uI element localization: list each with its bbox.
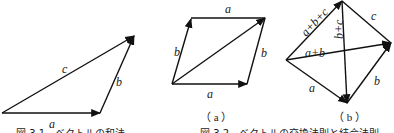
label-c: c bbox=[371, 9, 377, 23]
label-b-plus-c: b+c bbox=[332, 19, 346, 39]
vector-b-arrow bbox=[347, 43, 391, 103]
vector-addition-diagrams: a b c a a b b （ a ） a b c a+b b+c a+b+c … bbox=[0, 0, 394, 133]
vector-a-arrow bbox=[286, 60, 347, 103]
vector-a-plus-b-arrow bbox=[286, 43, 391, 60]
label-b: b bbox=[116, 75, 122, 89]
label-a-top: a bbox=[225, 2, 231, 16]
label-a-plus-b-plus-c: a+b+c bbox=[298, 4, 332, 39]
label-c: c bbox=[62, 62, 68, 76]
label-a: a bbox=[309, 81, 315, 95]
label-b: b bbox=[374, 74, 380, 88]
subfigure-b-tag: （ b ） bbox=[333, 111, 366, 123]
figure-3-2b-associative: a b c a+b b+c a+b+c （ b ） bbox=[286, 1, 391, 123]
figure-3-2a-parallelogram: a a b b （ a ） bbox=[172, 2, 267, 123]
label-a-bottom: a bbox=[207, 87, 213, 101]
diagonal-sum-arrow bbox=[172, 18, 265, 84]
figure-3-1-triangle: a b c bbox=[2, 36, 134, 131]
vector-b-plus-c-arrow bbox=[342, 1, 347, 103]
figure-3-1-caption: 図 3.1 ベクトルの和法 bbox=[16, 127, 125, 133]
subfigure-a-tag: （ a ） bbox=[200, 111, 232, 123]
label-a-plus-b: a+b bbox=[305, 46, 325, 60]
vector-c-arrow bbox=[2, 36, 134, 113]
figure-3-2-caption: 図 3.2 ベクトルの交換法則と結合法則 bbox=[200, 127, 379, 133]
vector-c-arrow bbox=[342, 1, 391, 43]
label-b-right: b bbox=[261, 46, 267, 60]
label-b-left: b bbox=[174, 45, 180, 59]
